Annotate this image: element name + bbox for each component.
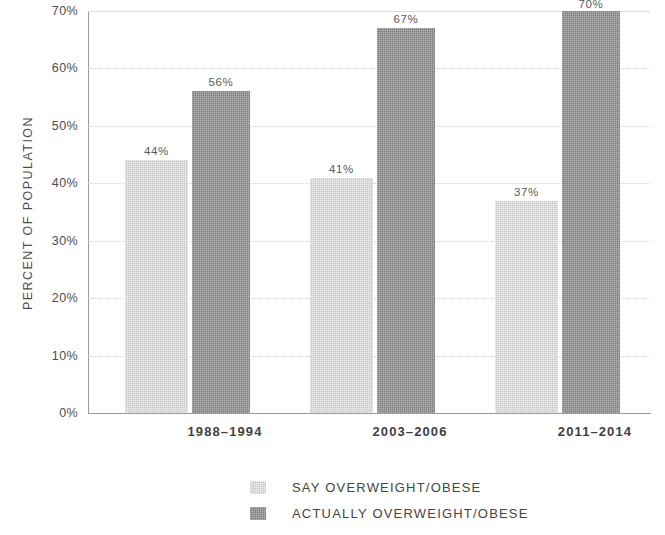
x-tick-label-1988-1994: 1988–1994 [125, 424, 325, 439]
bar-value-label-say-2011-2014: 37% [492, 186, 562, 198]
legend-item-actually: ACTUALLY OVERWEIGHT/OBESE [250, 500, 529, 526]
legend-label-say: SAY OVERWEIGHT/OBESE [292, 480, 481, 495]
y-tick-label: 0% [18, 406, 78, 420]
x-axis-line [88, 413, 651, 414]
x-tick-label-2011-2014: 2011–2014 [495, 424, 665, 439]
y-tick-label: 60% [18, 61, 78, 75]
legend-swatch-actually-icon [250, 507, 266, 520]
bar-actually-2003-2006 [377, 28, 435, 413]
bar-value-label-say-1988-1994: 44% [122, 145, 192, 157]
y-tick-label: 10% [18, 349, 78, 363]
y-tick-label: 40% [18, 176, 78, 190]
bar-say-2003-2006 [310, 178, 373, 413]
bar-chart: PERCENT OF POPULATION 70% 60% 50% 40% 30… [0, 0, 665, 535]
bar-actually-2011-2014 [562, 11, 620, 413]
bar-value-label-actually-1988-1994: 56% [186, 76, 256, 88]
legend-item-say: SAY OVERWEIGHT/OBESE [250, 474, 529, 500]
plot-area: 44% 56% 41% 67% 37% 70% [88, 11, 650, 413]
chart-legend: SAY OVERWEIGHT/OBESE ACTUALLY OVERWEIGHT… [250, 474, 529, 526]
y-tick-label: 70% [18, 4, 78, 18]
bar-value-label-say-2003-2006: 41% [307, 163, 377, 175]
x-tick-label-2003-2006: 2003–2006 [310, 424, 510, 439]
bar-value-label-actually-2011-2014: 70% [556, 0, 626, 10]
legend-label-actually: ACTUALLY OVERWEIGHT/OBESE [292, 506, 529, 521]
y-tick-label: 20% [18, 291, 78, 305]
y-tick-label: 50% [18, 119, 78, 133]
bar-say-1988-1994 [125, 160, 188, 413]
bar-value-label-actually-2003-2006: 67% [371, 13, 441, 25]
bar-say-2011-2014 [495, 201, 558, 413]
bar-actually-1988-1994 [192, 91, 250, 413]
y-tick-label: 30% [18, 234, 78, 248]
legend-swatch-say-icon [250, 481, 266, 494]
